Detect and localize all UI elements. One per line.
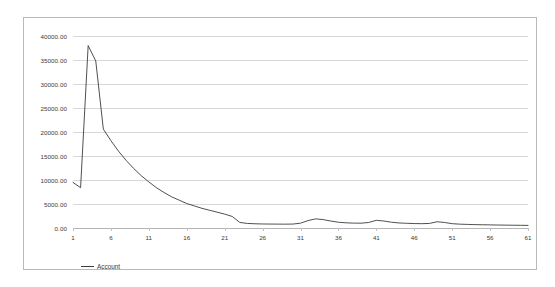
chart-legend: Account	[81, 263, 120, 270]
plot-area: 40000.0035000.0030000.0025000.0020000.00…	[73, 36, 528, 228]
y-tick-label-0: 0.00	[55, 225, 67, 232]
x-tick-label-16: 16	[183, 234, 190, 241]
y-tick-label-10000: 10000.00	[40, 177, 67, 184]
x-tick-36	[338, 228, 339, 231]
x-tick-21	[225, 228, 226, 231]
y-tick-label-40000: 40000.00	[40, 33, 67, 40]
x-tick-1	[73, 228, 74, 231]
legend-label-account: Account	[97, 263, 120, 270]
x-tick-31	[301, 228, 302, 231]
x-tick-label-61: 61	[525, 234, 532, 241]
x-tick-label-51: 51	[449, 234, 456, 241]
x-tick-label-31: 31	[297, 234, 304, 241]
x-tick-61	[528, 228, 529, 231]
x-tick-label-1: 1	[71, 234, 74, 241]
x-tick-label-46: 46	[411, 234, 418, 241]
x-tick-16	[187, 228, 188, 231]
y-tick-label-35000: 35000.00	[40, 57, 67, 64]
x-tick-11	[149, 228, 150, 231]
legend-line-swatch-account	[81, 266, 94, 267]
x-tick-46	[414, 228, 415, 231]
series-line-account	[73, 36, 528, 228]
y-tick-label-30000: 30000.00	[40, 81, 67, 88]
y-tick-label-5000: 5000.00	[44, 201, 67, 208]
x-tick-label-6: 6	[109, 234, 112, 241]
x-tick-41	[376, 228, 377, 231]
x-tick-label-56: 56	[487, 234, 494, 241]
x-tick-51	[452, 228, 453, 231]
y-tick-label-20000: 20000.00	[40, 129, 67, 136]
y-tick-label-15000: 15000.00	[40, 153, 67, 160]
x-tick-label-11: 11	[146, 234, 152, 241]
x-tick-26	[263, 228, 264, 231]
x-tick-6	[111, 228, 112, 231]
x-tick-label-21: 21	[221, 234, 228, 241]
chart-container: 40000.0035000.0030000.0025000.0020000.00…	[23, 17, 537, 270]
x-tick-label-41: 41	[373, 234, 380, 241]
x-tick-label-36: 36	[335, 234, 342, 241]
series-path-account	[73, 46, 528, 226]
x-tick-56	[490, 228, 491, 231]
y-tick-label-25000: 25000.00	[40, 105, 67, 112]
x-tick-label-26: 26	[259, 234, 266, 241]
